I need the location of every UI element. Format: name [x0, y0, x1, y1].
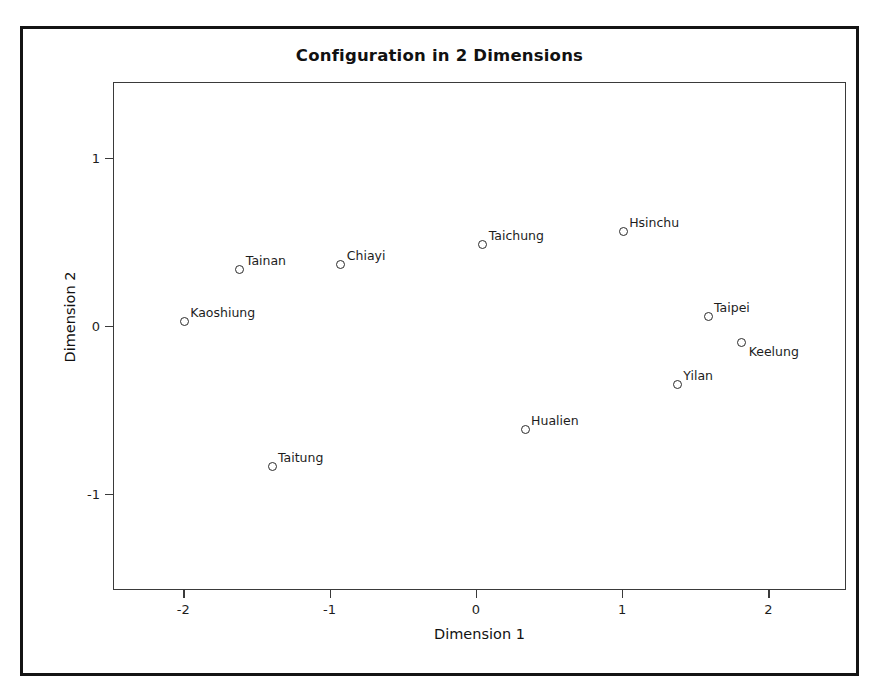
scatter-points-layer: KaoshiungTainanTaitungChiayiTaichungHual…	[114, 83, 845, 589]
point-label: Taichung	[489, 230, 544, 243]
point-label: Kaoshiung	[190, 307, 255, 320]
point-label: Chiayi	[347, 250, 386, 263]
point-label: Tainan	[246, 255, 286, 268]
x-axis-tick	[330, 590, 331, 598]
x-axis-tick	[768, 590, 769, 598]
point-marker-icon	[336, 260, 345, 269]
y-axis-tick-label: 1	[92, 150, 100, 165]
point-label: Hualien	[531, 415, 579, 428]
x-axis-tick	[622, 590, 623, 598]
figure-inner: Configuration in 2 Dimensions KaoshiungT…	[23, 29, 856, 673]
point-marker-icon	[268, 462, 277, 471]
chart-title: Configuration in 2 Dimensions	[23, 46, 856, 65]
x-axis-title: Dimension 1	[113, 626, 846, 642]
point-label: Yilan	[683, 370, 713, 383]
plot-panel: KaoshiungTainanTaitungChiayiTaichungHual…	[113, 82, 846, 590]
y-axis-tick-label: -1	[87, 487, 100, 502]
point-marker-icon	[180, 317, 189, 326]
point-marker-icon	[235, 265, 244, 274]
point-label: Hsinchu	[629, 217, 679, 230]
figure-frame: Configuration in 2 Dimensions KaoshiungT…	[20, 26, 859, 676]
y-axis-tick	[105, 158, 113, 159]
x-axis-tick-label: 1	[618, 602, 626, 617]
point-label: Taipei	[714, 302, 750, 315]
point-marker-icon	[521, 425, 530, 434]
point-marker-icon	[673, 380, 682, 389]
point-label: Keelung	[749, 346, 799, 359]
x-axis-tick	[183, 590, 184, 598]
y-axis-title: Dimension 2	[62, 237, 78, 397]
x-axis-tick-label: -2	[177, 602, 190, 617]
point-marker-icon	[478, 240, 487, 249]
point-marker-icon	[704, 312, 713, 321]
y-axis-tick-label: 0	[92, 318, 100, 333]
x-axis-tick-label: 0	[472, 602, 480, 617]
y-axis-tick	[105, 326, 113, 327]
x-axis-tick-label: 2	[764, 602, 772, 617]
x-axis: -2-1012	[113, 590, 846, 626]
point-marker-icon	[737, 338, 746, 347]
point-label: Taitung	[278, 452, 323, 465]
x-axis-tick-label: -1	[323, 602, 336, 617]
point-marker-icon	[619, 227, 628, 236]
x-axis-tick	[476, 590, 477, 598]
y-axis-tick	[105, 494, 113, 495]
